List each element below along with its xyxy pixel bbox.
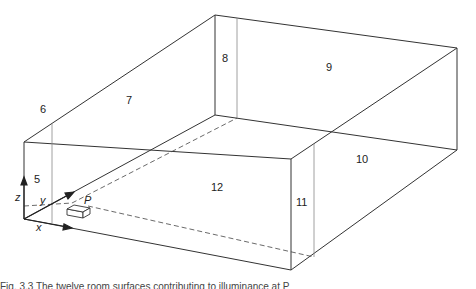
- edge-top-left: [24, 15, 215, 142]
- label-12: 12: [211, 181, 223, 193]
- label-5: 5: [34, 173, 40, 185]
- label-7: 7: [126, 94, 132, 106]
- edge-top-front: [24, 142, 291, 159]
- edge-top-right: [291, 48, 457, 159]
- x-arrow-icon: [63, 224, 72, 230]
- label-x: x: [35, 221, 42, 233]
- dashed-line-right: [88, 206, 314, 257]
- y-arrow-icon: [65, 192, 74, 199]
- point-p-box: [67, 205, 90, 218]
- label-6: 6: [40, 103, 46, 115]
- edge-top-back: [215, 15, 457, 48]
- label-10: 10: [356, 153, 368, 165]
- label-y: y: [39, 194, 47, 206]
- label-8: 8: [222, 52, 228, 64]
- figure-caption: Fig. 3.3 The twelve room surfaces contri…: [0, 281, 476, 289]
- label-p: P: [84, 194, 92, 206]
- label-11: 11: [296, 196, 307, 208]
- edge-bottom-back: [215, 115, 457, 150]
- z-arrow-icon: [21, 177, 27, 185]
- edge-bottom-right: [291, 150, 457, 270]
- label-9: 9: [326, 61, 332, 73]
- room-diagram: 5 6 7 8 9 10 11 12 P z y x: [0, 0, 476, 289]
- label-z: z: [14, 191, 21, 203]
